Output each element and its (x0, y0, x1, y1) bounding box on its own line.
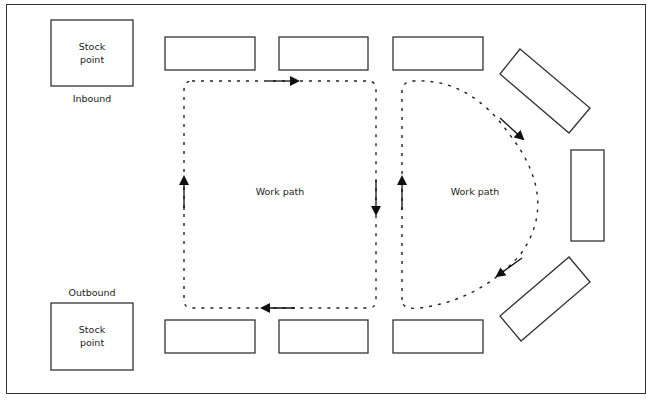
workstation-bottom-3 (393, 320, 483, 353)
workstation-top-1 (165, 37, 255, 70)
stock-point-outbound-label: Stock point (51, 323, 133, 349)
top-workstations (165, 37, 483, 70)
inbound-caption: Inbound (51, 92, 133, 105)
stock-point-inbound-label: Stock point (51, 40, 133, 66)
bottom-workstations (165, 320, 483, 353)
workstation-arc-bottom (500, 257, 590, 341)
workstation-top-3 (393, 37, 483, 70)
work-path-right-label: Work path (440, 185, 510, 198)
arrow-diagonal-left-icon (497, 258, 522, 276)
stock-label-line1: Stock (51, 40, 133, 53)
workstation-arc-top (500, 49, 590, 133)
workstation-top-2 (279, 37, 368, 70)
stock-label-line2: point (51, 53, 133, 66)
workstation-bottom-2 (279, 320, 368, 353)
work-path-left-label: Work path (240, 185, 320, 198)
outbound-caption: Outbound (51, 286, 133, 299)
stock-label-line1: Stock (51, 323, 133, 336)
arc-workstations (500, 49, 604, 341)
workstation-arc-middle (571, 150, 604, 241)
stock-label-line2: point (51, 336, 133, 349)
workstation-bottom-1 (165, 320, 255, 353)
